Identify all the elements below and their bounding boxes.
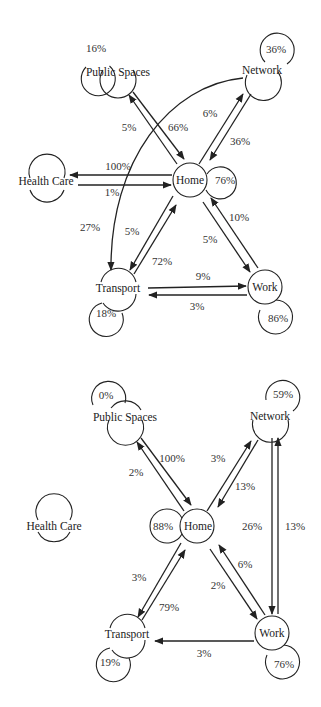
- self-loop-value: 18%: [96, 307, 116, 319]
- node-circle: [36, 494, 72, 520]
- node-work: 86% Work: [248, 270, 292, 334]
- diagram-bottom: 0% Public Spaces 59% Network 88% Home He…: [26, 380, 305, 681]
- edge-work-to-home: [219, 545, 265, 615]
- node-circle-top: [111, 401, 141, 410]
- edge-work-to-home: [211, 198, 258, 268]
- node-label: Network: [250, 410, 290, 422]
- edge-label-public-to-home: 66%: [168, 121, 188, 133]
- edge-label-home-to-transport: 3%: [132, 571, 147, 583]
- self-loop-value: 59%: [273, 388, 293, 400]
- node-label: Work: [259, 627, 285, 639]
- edge-label-home-to-work: 2%: [211, 579, 226, 591]
- node-circle: [107, 420, 143, 445]
- node-label: Transport: [96, 282, 141, 295]
- edge-network-to-home: [218, 440, 258, 507]
- node-health-care: Health Care: [26, 494, 81, 542]
- edge-label-home-to-network: 6%: [203, 107, 218, 119]
- self-loop-value: 19%: [100, 656, 120, 668]
- edge-label-work-to-home: 6%: [238, 558, 253, 570]
- transition-diagrams: 16% Public Spaces 36% Network 76% Home H…: [0, 0, 321, 707]
- node-label: Health Care: [18, 175, 73, 187]
- edge-label-transport-to-work: 9%: [196, 270, 211, 282]
- edge-label-home-to-health: 100%: [105, 160, 131, 172]
- edge-label-network-to-transport: 27%: [80, 221, 100, 233]
- self-loop-value: 86%: [268, 312, 288, 324]
- node-circle-lower: [30, 190, 64, 202]
- node-label: Health Care: [26, 520, 81, 532]
- self-loop-value: 76%: [274, 658, 294, 670]
- edge-label-home-to-public: 2%: [129, 466, 144, 478]
- edge-label-network-to-home: 36%: [230, 135, 250, 147]
- node-label: Public Spaces: [86, 66, 151, 79]
- node-label: Network: [242, 64, 282, 76]
- edge-label-health-to-home: 1%: [105, 186, 120, 198]
- edge-label-home-to-work: 5%: [203, 233, 218, 245]
- edge-public-to-home: [141, 438, 191, 505]
- node-circle: [110, 614, 145, 628]
- edge-label-work-to-home: 10%: [229, 211, 249, 223]
- edge-label-public-to-home: 100%: [159, 452, 185, 464]
- node-network: 36% Network: [242, 33, 294, 100]
- edge-label-work-to-transport: 3%: [190, 300, 205, 312]
- edge-network-to-home: [210, 94, 251, 160]
- node-circle: [245, 72, 281, 100]
- self-loop-value: 0%: [99, 389, 114, 401]
- node-transport: 19% Transport: [96, 614, 150, 681]
- self-loop-value: 16%: [86, 42, 106, 54]
- edge-label-home-to-public: 5%: [122, 121, 137, 133]
- node-circle: [101, 268, 136, 282]
- self-loop-value: 88%: [153, 520, 173, 532]
- node-public-spaces: 0% Public Spaces: [92, 381, 158, 445]
- node-label: Home: [176, 174, 204, 186]
- node-health-care: Health Care: [18, 154, 73, 202]
- node-public-spaces: 16% Public Spaces: [81, 42, 150, 98]
- edge-label-transport-to-home: 79%: [159, 601, 179, 613]
- node-circle-lower: [38, 532, 70, 542]
- diagram-top: 16% Public Spaces 36% Network 76% Home H…: [18, 33, 294, 336]
- node-home: 76% Home: [173, 163, 236, 199]
- edge-label-home-to-transport: 5%: [125, 225, 140, 237]
- edge-transport-to-work: [148, 286, 246, 288]
- edge-label-work-to-transport: 3%: [197, 647, 212, 659]
- edge-label-network-to-home: 13%: [235, 480, 255, 492]
- node-network: 59% Network: [250, 380, 300, 442]
- self-loop-value: 36%: [266, 43, 286, 55]
- edge-label-transport-to-home: 72%: [152, 255, 172, 267]
- edge-home-to-network: [199, 94, 243, 164]
- node-work: 76% Work: [255, 616, 300, 679]
- node-transport: 18% Transport: [89, 268, 141, 336]
- edge-label-work-to-network: 13%: [285, 520, 305, 532]
- edge-label-home-to-network: 3%: [211, 452, 226, 464]
- node-label: Public Spaces: [93, 411, 158, 424]
- self-loop-value: 76%: [215, 174, 235, 186]
- node-label: Work: [252, 281, 278, 293]
- edge-label-network-to-work: 26%: [242, 520, 262, 532]
- node-label: Transport: [105, 628, 150, 641]
- node-label: Home: [184, 520, 212, 532]
- node-circle: [253, 420, 289, 442]
- node-home: 88% Home: [150, 509, 214, 543]
